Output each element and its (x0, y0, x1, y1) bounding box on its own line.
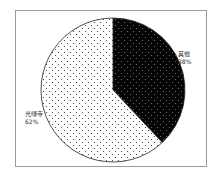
slice-percent: 62% (25, 118, 43, 126)
pie-chart (0, 0, 222, 180)
slice-name: 光绿寺 (25, 110, 43, 118)
pie-slices (41, 18, 185, 162)
slice-name: 其他 (178, 50, 191, 58)
slice-label-guanglvsi: 光绿寺 62% (25, 110, 43, 126)
slice-label-other: 其他 38% (178, 50, 191, 66)
slice-percent: 38% (178, 58, 191, 66)
